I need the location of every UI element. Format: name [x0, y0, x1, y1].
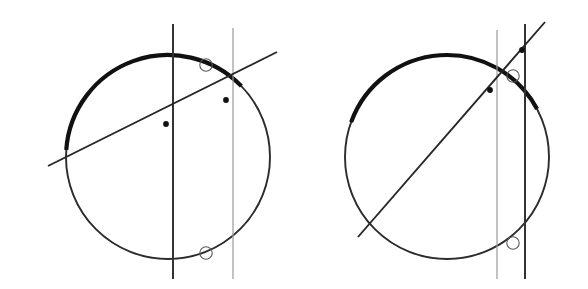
filled-marker-point-b: [223, 97, 229, 103]
filled-marker-point-b: [519, 47, 525, 53]
filled-marker-point-a: [163, 121, 169, 127]
filled-marker-point-a: [487, 87, 493, 93]
figure-background: [0, 0, 588, 289]
figure-canvas: [0, 0, 588, 289]
geometry-figure: [0, 0, 588, 289]
